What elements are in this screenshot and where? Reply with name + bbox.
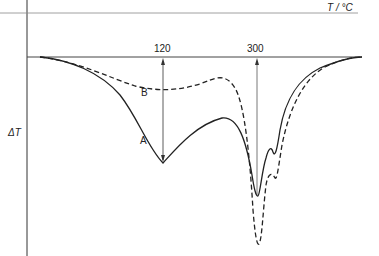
annotation-300: 300 [247,44,264,54]
y-axis-label: ΔT [8,128,21,138]
annotation-120: 120 [154,44,171,54]
curve-a-label: A [140,136,147,146]
curve-b [40,57,362,244]
arrowhead-120-top [161,58,165,65]
arrowhead-300-top [255,58,259,65]
curve-b-label: B [141,88,148,98]
curve-a [40,57,362,196]
x-axis-label: T / °C [327,3,353,13]
dta-chart [0,0,379,256]
